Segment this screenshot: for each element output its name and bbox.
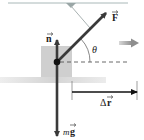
motion-arrow-icon [131, 39, 139, 48]
angle-arc [81, 39, 90, 62]
svg-text:m: m [63, 127, 70, 137]
svg-text:n: n [46, 33, 52, 44]
angle-label: θ [92, 44, 97, 55]
normal-label: n [46, 33, 53, 45]
force-vector-arrow [57, 13, 106, 62]
displacement-label: Δ r [100, 96, 113, 109]
motion-arrow-shaft [119, 41, 132, 45]
attachment-bracket-icon [66, 3, 76, 8]
force-label: F [112, 11, 118, 24]
point-of-application-dot [54, 59, 61, 66]
svg-text:g: g [70, 126, 75, 137]
svg-text:Δ: Δ [100, 97, 107, 108]
weight-label: m g [63, 124, 76, 138]
svg-text:F: F [112, 12, 118, 23]
free-body-diagram: F n θ m g Δ r [0, 0, 144, 140]
string-line [71, 6, 90, 28]
ground-surface [0, 77, 106, 83]
